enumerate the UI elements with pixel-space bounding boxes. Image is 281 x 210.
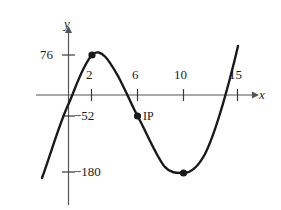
- point-local-minimum: [180, 169, 187, 176]
- x-tick-label-10: 10: [174, 68, 187, 81]
- y-tick-label--180: −180: [74, 165, 101, 178]
- x-tick-label-2: 2: [86, 68, 93, 81]
- x-tick-label-15: 15: [229, 68, 242, 81]
- x-tick-label-6: 6: [132, 68, 139, 81]
- inflection-point-label: IP: [143, 110, 154, 122]
- point-local-maximum: [88, 51, 95, 58]
- y-tick-label-76: 76: [40, 48, 53, 61]
- point-inflection: [134, 112, 141, 119]
- graph-figure: y x 2 6 10 15 76 −52 −180 IP: [0, 0, 281, 210]
- cubic-curve-plot: [0, 0, 281, 210]
- y-tick-label--52: −52: [74, 109, 94, 122]
- cubic-curve-path: [42, 46, 238, 178]
- y-axis-label: y: [64, 17, 70, 30]
- x-axis-label: x: [259, 88, 265, 101]
- x-axis-arrowhead: [252, 91, 259, 98]
